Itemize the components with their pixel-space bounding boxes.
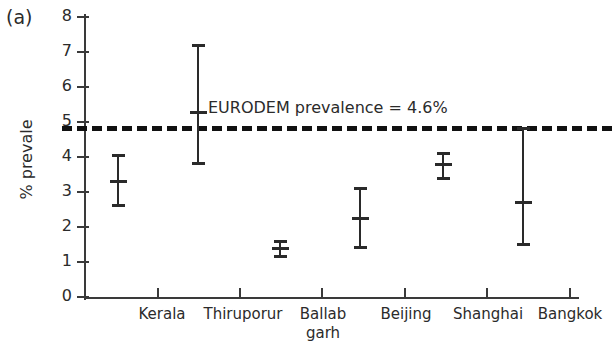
error-bar-lower-cap-shanghai (437, 177, 450, 180)
x-tick-5 (486, 288, 488, 299)
y-tick-5 (77, 121, 89, 123)
reference-line-label: EURODEM prevalence = 4.6% (208, 98, 448, 117)
x-tick-4 (404, 288, 406, 299)
data-point-shanghai (435, 163, 452, 166)
x-tick-6 (569, 288, 571, 299)
data-point-thiruporur (190, 111, 207, 114)
y-tick-label-6: 6 (38, 76, 72, 95)
error-bar-upper-cap-thiruporur (192, 44, 205, 47)
error-bar-lower-cap-bangkok (517, 243, 530, 246)
y-tick-label-8: 8 (38, 6, 72, 25)
y-tick-label-1: 1 (38, 251, 72, 270)
error-bar-upper-cap-ballabgarh (274, 240, 287, 243)
error-bar-upper-cap-shanghai (437, 152, 450, 155)
x-tick-3 (321, 288, 323, 299)
data-point-bangkok (515, 201, 532, 204)
y-tick-2 (77, 226, 89, 228)
error-bar-upper-cap-kerala (112, 154, 125, 157)
y-tick-4 (77, 156, 89, 158)
x-tick-label-ballabgarh-line1: Ballab (300, 305, 347, 323)
x-tick-1 (157, 288, 159, 299)
error-bar-line-bangkok (522, 128, 524, 245)
data-point-ballabgarh (272, 247, 289, 250)
figure-panel-a: (a) % prevale 8 7 6 5 4 3 2 1 0 Kerala T… (0, 0, 612, 362)
y-tick-8 (77, 16, 89, 18)
y-axis-title: % prevale (17, 90, 36, 230)
error-bar-upper-cap-beijing (354, 187, 367, 190)
y-tick-1 (77, 261, 89, 263)
error-bar-upper-cap-bangkok (517, 127, 530, 130)
y-tick-7 (77, 51, 89, 53)
x-tick-2 (239, 288, 241, 299)
error-bar-line-shanghai (442, 153, 444, 179)
error-bar-lower-cap-beijing (354, 246, 367, 249)
x-tick-label-bangkok: Bangkok (515, 305, 612, 324)
x-tick-label-ballabgarh-line2: garh (306, 324, 340, 342)
error-bar-lower-cap-kerala (112, 204, 125, 207)
y-tick-label-3: 3 (38, 181, 72, 200)
data-point-beijing (352, 217, 369, 220)
error-bar-lower-cap-thiruporur (192, 162, 205, 165)
y-tick-label-2: 2 (38, 216, 72, 235)
y-tick-label-7: 7 (38, 41, 72, 60)
y-tick-label-0: 0 (38, 286, 72, 305)
error-bar-lower-cap-ballabgarh (274, 255, 287, 258)
error-bar-line-thiruporur (197, 45, 199, 164)
y-tick-0 (77, 296, 89, 298)
data-point-kerala (110, 180, 127, 183)
y-tick-label-4: 4 (38, 146, 72, 165)
y-tick-3 (77, 191, 89, 193)
y-tick-6 (77, 86, 89, 88)
panel-label: (a) (6, 6, 32, 28)
